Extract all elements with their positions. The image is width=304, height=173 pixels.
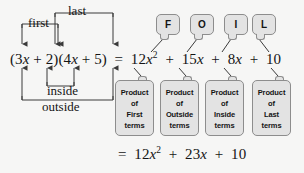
- foil-chip-f-label: F: [165, 19, 171, 30]
- final-term-2: 23x: [185, 146, 207, 162]
- foil-chip-l-label: L: [261, 19, 267, 30]
- foil-chip-i-tail: [228, 34, 237, 40]
- final-term-1: 12x2: [134, 146, 161, 162]
- foil-diagram: first last inside outside (3x + 2)(4x + …: [0, 0, 304, 173]
- product-box-leader-lines: [134, 68, 278, 76]
- product-box-last-line-3: Last: [264, 109, 279, 120]
- plus-sign-1: +: [162, 51, 178, 67]
- product-box-outside-line-4: terms: [170, 120, 190, 131]
- product-box-last-line-1: Product: [258, 87, 286, 98]
- product-box-inside-line-2: of: [221, 98, 228, 109]
- final-equation: = 12x2 + 23x + 10: [118, 146, 246, 163]
- product-box-last-line-2: of: [268, 98, 275, 109]
- product-box-first-line-3: First: [127, 109, 143, 120]
- product-box-outside-line-2: of: [176, 98, 183, 109]
- foil-chip-i-label: I: [235, 19, 238, 30]
- product-box-last-line-4: terms: [262, 120, 282, 131]
- plus-sign-3: +: [246, 51, 262, 67]
- label-last: last: [68, 3, 86, 19]
- product-box-first: Product of First terms: [115, 80, 154, 136]
- expansion-term-o: 15x: [182, 51, 204, 67]
- expansion-term-l: 10: [266, 51, 281, 67]
- product-box-last: Product of Last terms: [252, 80, 291, 136]
- foil-chip-f-tail: [160, 34, 169, 40]
- product-box-inside-line-3: Inside: [214, 109, 235, 120]
- product-box-outside-line-1: Product: [166, 87, 194, 98]
- product-box-first-line-1: Product: [121, 87, 149, 98]
- expansion-term-i: 8x: [228, 51, 242, 67]
- label-first: first: [28, 15, 49, 31]
- foil-chip-o-tail: [194, 34, 203, 40]
- foil-chip-o: O: [190, 14, 214, 35]
- factor-one: (3x + 2): [10, 51, 58, 67]
- foil-chip-o-label: O: [198, 19, 206, 30]
- product-box-inside-line-1: Product: [211, 87, 239, 98]
- plus-sign-2: +: [208, 51, 224, 67]
- product-box-outside-line-3: Outside: [166, 109, 193, 120]
- foil-chip-i: I: [224, 14, 248, 35]
- plus-sign-4: +: [165, 146, 181, 162]
- equals-sign-final: =: [118, 146, 130, 162]
- product-box-inside: Product of Inside terms: [205, 80, 244, 136]
- foil-chip-l-tail: [256, 34, 265, 40]
- product-box-first-line-4: terms: [125, 120, 145, 131]
- product-box-outside: Product of Outside terms: [160, 80, 199, 136]
- product-box-first-line-2: of: [131, 98, 138, 109]
- plus-sign-5: +: [211, 146, 227, 162]
- label-outside: outside: [42, 99, 80, 115]
- foil-chip-l: L: [252, 14, 276, 35]
- label-inside: inside: [47, 83, 78, 99]
- factor-two: (4x + 5): [58, 51, 106, 67]
- main-equation: (3x + 2)(4x + 5) = 12x2 + 15x + 8x + 10: [10, 51, 281, 68]
- expansion-term-f: 12x2: [131, 51, 158, 67]
- foil-chip-f: F: [156, 14, 180, 35]
- final-term-3: 10: [231, 146, 246, 162]
- product-box-inside-line-4: terms: [215, 120, 235, 131]
- equals-sign-main: =: [111, 51, 127, 67]
